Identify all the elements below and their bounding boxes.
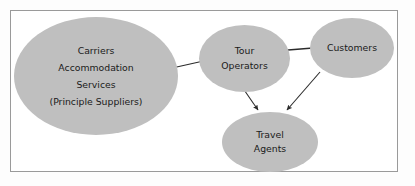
node-tour-operators[interactable]: Tour Operators [199, 25, 290, 92]
diagram-canvas: Carriers Accommodation Services (Princip… [0, 0, 415, 186]
node-label-line: Operators [221, 59, 267, 73]
node-travel-agents[interactable]: Travel Agents [222, 112, 318, 172]
node-label-line: Agents [254, 142, 286, 156]
node-label-line: Customers [327, 41, 377, 55]
node-label-line: Carriers [78, 42, 115, 59]
node-label-line: Services [76, 76, 115, 93]
node-principal-suppliers[interactable]: Carriers Accommodation Services (Princip… [14, 17, 178, 135]
node-label-line: Travel [256, 128, 284, 142]
node-label-line: Tour [235, 44, 255, 58]
node-label-line: Accommodation [58, 59, 133, 76]
node-label-line: (Principle Suppliers) [50, 93, 143, 110]
node-customers[interactable]: Customers [310, 18, 394, 78]
